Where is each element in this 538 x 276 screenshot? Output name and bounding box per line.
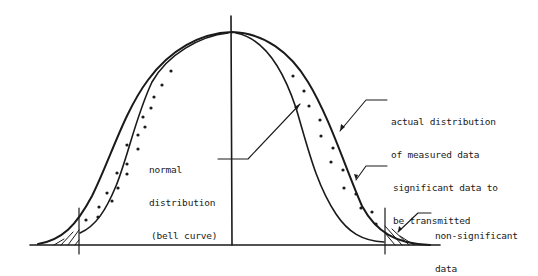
leader-actual (340, 100, 387, 131)
leader-significant (356, 166, 387, 180)
label-actual-line2: of measured data (391, 149, 496, 160)
hatched-tails-non-significant-data (54, 226, 414, 245)
label-normal-line1: normal (149, 164, 217, 175)
label-normal-line2: distribution (149, 197, 217, 208)
label-actual-line1: actual distribution (391, 116, 496, 127)
label-non-significant-data: non-significant data (435, 208, 518, 276)
arrow-significant-icon (354, 174, 358, 180)
label-non-significant-line2: data (435, 263, 518, 274)
arrow-actual-icon (340, 124, 345, 131)
center-vertical-line (231, 16, 232, 245)
label-normal-line3: (bell curve) (149, 230, 217, 241)
arrowheads (294, 104, 402, 232)
label-significant-line1: significant data to (393, 182, 498, 193)
leader-normal (218, 104, 300, 159)
label-non-significant-line1: non-significant (435, 230, 518, 241)
label-normal-distribution: normal distribution (bell curve) (149, 142, 217, 252)
